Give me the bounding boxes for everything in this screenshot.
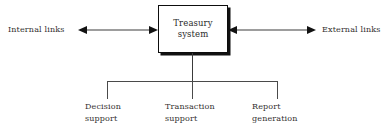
transaction-support-label: Transaction support — [165, 101, 215, 124]
connector-stem-right — [277, 81, 278, 99]
decision-support-label-line1: Decision — [85, 101, 121, 113]
connector-stem-left — [107, 81, 108, 99]
report-generation-label-line1: Report — [252, 101, 298, 113]
report-generation-label-line2: generation — [252, 113, 298, 125]
treasury-system-node[interactable]: Treasury system — [158, 5, 228, 53]
double-headed-arrow-left-icon — [78, 24, 158, 36]
transaction-support-label-line2: support — [165, 113, 215, 125]
treasury-system-label-line2: system — [178, 29, 209, 40]
internal-links-label: Internal links — [8, 26, 64, 34]
treasury-system-label-line1: Treasury — [173, 18, 212, 29]
connector-stem-main — [192, 53, 193, 82]
decision-support-label-line2: support — [85, 113, 121, 125]
transaction-support-label-line1: Transaction — [165, 101, 215, 113]
decision-support-label: Decision support — [85, 101, 121, 124]
report-generation-label: Report generation — [252, 101, 298, 124]
connector-stem-middle — [192, 81, 193, 99]
diagram-canvas: Treasury system Internal links External … — [0, 0, 388, 128]
double-headed-arrow-right-icon — [228, 24, 316, 36]
external-links-label: External links — [322, 26, 380, 34]
